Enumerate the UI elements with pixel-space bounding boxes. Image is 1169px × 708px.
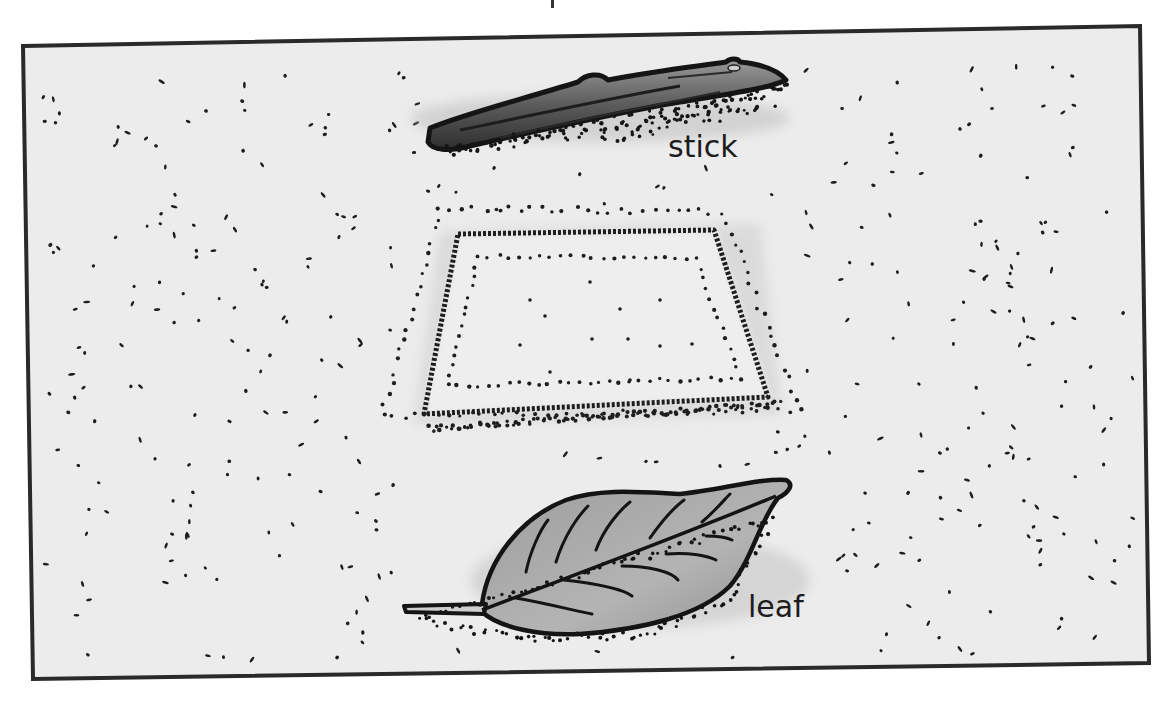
soil-illustration: stick leaf [0,0,1169,708]
ground-imprint [381,205,804,433]
stick-label: stick [668,129,738,164]
cropped-text-fragment [551,0,554,8]
leaf-label: leaf [748,589,805,624]
